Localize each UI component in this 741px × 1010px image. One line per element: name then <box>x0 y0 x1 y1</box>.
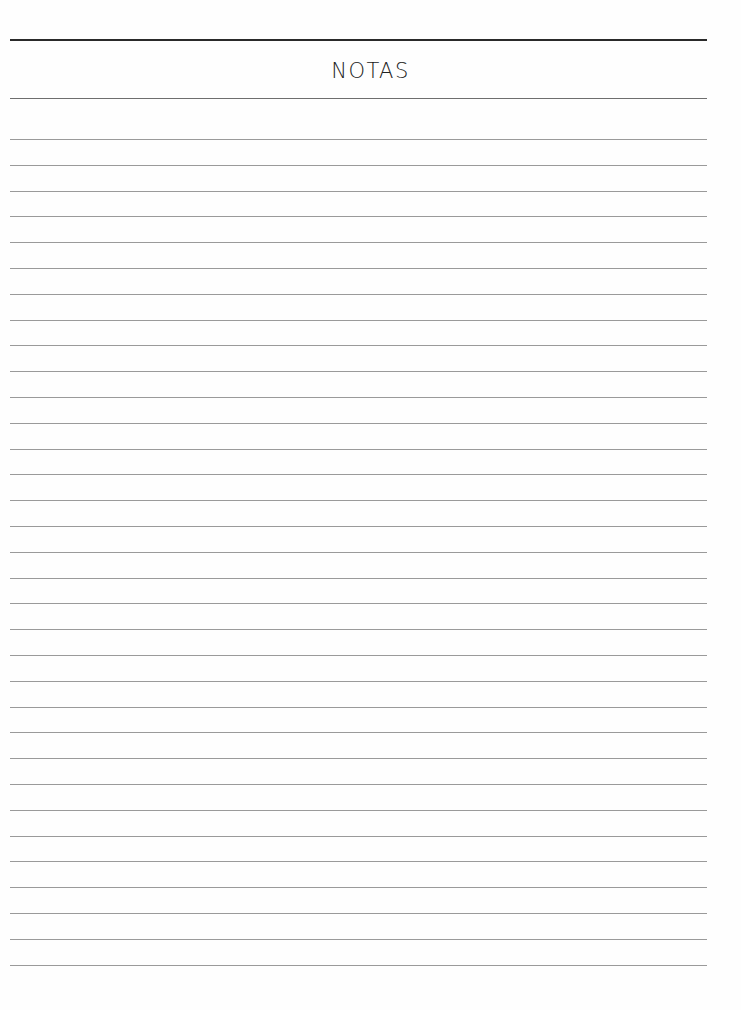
ruled-line <box>10 474 707 475</box>
ruled-line <box>10 784 707 785</box>
ruled-line <box>10 320 707 321</box>
ruled-line <box>10 629 707 630</box>
ruled-line <box>10 268 707 269</box>
ruled-line <box>10 939 707 940</box>
ruled-line <box>10 603 707 604</box>
ruled-line <box>10 732 707 733</box>
ruled-line <box>10 165 707 166</box>
notes-page: NOTAS <box>0 0 741 1010</box>
ruled-line <box>10 758 707 759</box>
ruled-line <box>10 965 707 966</box>
ruled-line <box>10 810 707 811</box>
ruled-line <box>10 913 707 914</box>
ruled-line <box>10 139 707 140</box>
ruled-line <box>10 216 707 217</box>
page-title: NOTAS <box>0 56 741 86</box>
ruled-line <box>10 578 707 579</box>
ruled-line <box>10 526 707 527</box>
ruled-line <box>10 345 707 346</box>
ruled-line <box>10 500 707 501</box>
ruled-line <box>10 707 707 708</box>
header-bottom-rule <box>10 98 707 99</box>
ruled-line <box>10 191 707 192</box>
ruled-line <box>10 552 707 553</box>
ruled-line <box>10 294 707 295</box>
ruled-line <box>10 861 707 862</box>
header-top-rule <box>10 39 707 41</box>
ruled-line <box>10 836 707 837</box>
ruled-line <box>10 397 707 398</box>
ruled-line <box>10 242 707 243</box>
ruled-line <box>10 371 707 372</box>
ruled-line <box>10 681 707 682</box>
ruled-line <box>10 423 707 424</box>
ruled-line <box>10 887 707 888</box>
ruled-line <box>10 655 707 656</box>
ruled-line <box>10 449 707 450</box>
